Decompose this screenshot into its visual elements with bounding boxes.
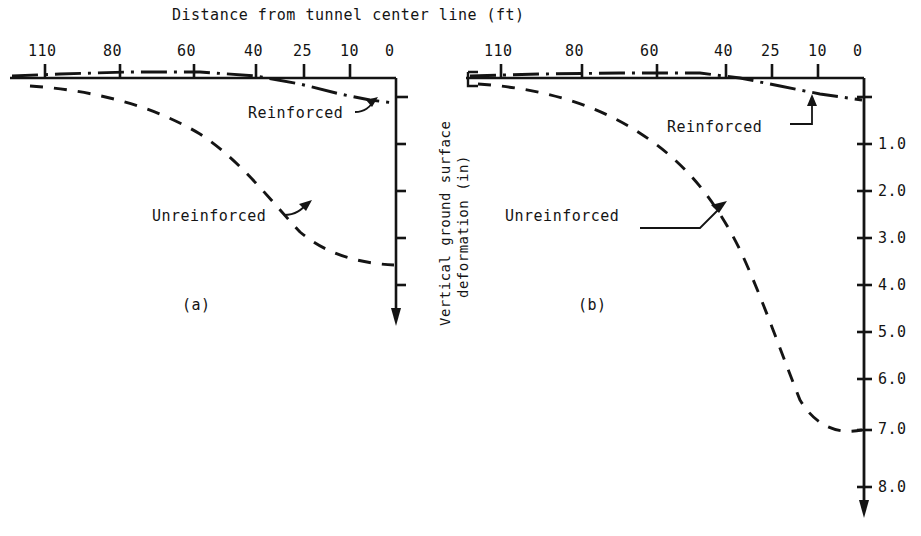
figure-container: Distance from tunnel center line (ft) 11… — [0, 0, 921, 536]
panel-b-series-unreinforced — [478, 84, 862, 431]
panel-b-axes — [466, 64, 872, 518]
panel-a-axes — [10, 64, 408, 326]
panel-b-leader-unreinforced — [640, 201, 727, 228]
panel-a-series-unreinforced — [30, 86, 394, 265]
panel-a-leader-unreinforced — [284, 200, 312, 215]
figure-vector-layer — [0, 0, 921, 536]
panel-a-series-reinforced — [12, 72, 394, 103]
panel-b-leader-reinforced — [790, 94, 817, 124]
